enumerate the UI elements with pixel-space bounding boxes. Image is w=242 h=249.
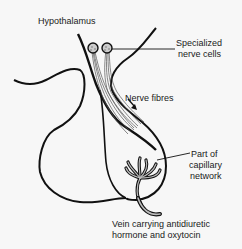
label-capillary-2: capillary (189, 160, 223, 170)
nerve-cell-left (88, 43, 98, 53)
label-nerve-fibres: Nerve fibres (125, 93, 174, 103)
label-nerve-cells-1: Specialized (176, 38, 222, 48)
hypothalamus-outline-left (14, 69, 126, 202)
label-vein-1: Vein carrying antidiuretic (112, 219, 211, 229)
label-vein-2: hormone and oxytocin (112, 230, 201, 240)
pituitary-diagram: Hypothalamus Specialized nerve cells Ner… (0, 0, 242, 249)
vein-inner (138, 198, 160, 214)
nerve-cell-right (102, 43, 112, 53)
label-capillary-3: network (190, 171, 222, 181)
label-capillary-1: Part of (191, 149, 218, 159)
leader-capillary (157, 153, 190, 160)
label-nerve-cells-2: nerve cells (178, 49, 222, 59)
label-hypothalamus: Hypothalamus (38, 16, 96, 26)
capillary-network (126, 158, 160, 204)
